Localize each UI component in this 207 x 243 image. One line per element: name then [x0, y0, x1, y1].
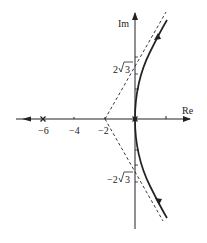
tick-label-minus-2: −2	[98, 125, 109, 136]
x-axis-label: Re	[182, 105, 194, 116]
asymptote-lower	[105, 119, 163, 221]
y-axis-label: Im	[118, 18, 129, 29]
lower-branch-arrow-icon	[155, 198, 162, 205]
svg-text:3: 3	[125, 174, 130, 185]
label-plus-root: 3	[125, 64, 130, 75]
upper-branch	[135, 20, 167, 119]
left-branch-arrow-icon	[22, 117, 31, 122]
label-plus-coef: 2	[113, 64, 118, 75]
label-minus-2-root-3: −2 3	[107, 172, 133, 185]
root-locus-diagram: Im Re −6 −4 −2 2 3 −2 3	[0, 0, 207, 243]
tick-label-minus-4: −4	[69, 125, 80, 136]
label-minus-coef: 2	[113, 174, 118, 185]
lower-branch	[135, 119, 167, 218]
label-plus-2-root-3: 2 3	[113, 62, 133, 75]
svg-text:2: 2	[113, 64, 118, 75]
tick-label-minus-6: −6	[38, 125, 49, 136]
pole-origin-icon	[133, 117, 138, 122]
svg-text:3: 3	[125, 64, 130, 75]
label-minus-root: 3	[125, 174, 130, 185]
svg-text:−2: −2	[107, 174, 118, 185]
